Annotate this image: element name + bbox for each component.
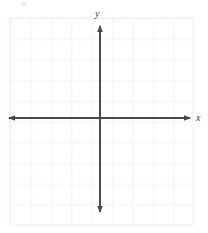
- y-axis-arrow-bottom: [97, 206, 103, 213]
- y-axis-group: [97, 25, 103, 213]
- coordinate-plane: y x: [0, 0, 208, 233]
- y-axis-label: y: [95, 9, 99, 19]
- x-axis-arrow-left: [8, 115, 15, 121]
- x-axis-label: x: [196, 113, 200, 123]
- y-axis-arrow-top: [97, 25, 103, 32]
- x-axis-arrow-right: [184, 115, 191, 121]
- axes-layer: [0, 0, 208, 233]
